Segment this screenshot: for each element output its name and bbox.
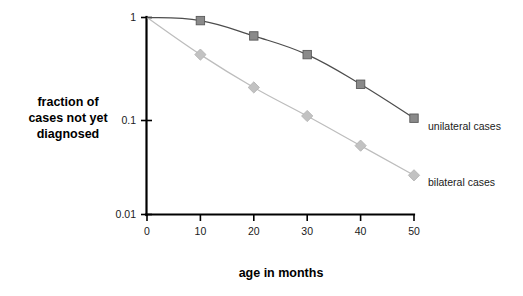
unilateral-marker	[356, 80, 364, 88]
unilateral-marker	[250, 32, 258, 40]
unilateral-marker	[196, 16, 204, 24]
y-axis-title-line-2: cases not yet	[28, 111, 108, 125]
bilateral-line	[147, 18, 414, 176]
bilateral-marker	[355, 140, 366, 151]
series-unilateral-cases	[147, 16, 418, 122]
x-tick-label-40: 40	[355, 225, 367, 237]
series-label-unilateral: unilateral cases	[428, 120, 501, 132]
x-tick-label-30: 30	[301, 225, 313, 237]
x-tick-label-20: 20	[248, 225, 260, 237]
y-tick-label-0.01: 0.01	[116, 208, 137, 220]
x-axis-ticks: 0 10 20 30 40 50	[144, 214, 420, 237]
chart-plot-area: fraction of cases not yet diagnosed 1 0.…	[0, 0, 523, 296]
y-tick-label-1: 1	[130, 11, 136, 23]
bilateral-marker	[302, 110, 313, 121]
unilateral-marker	[410, 114, 418, 122]
series-label-bilateral: bilateral cases	[428, 176, 495, 188]
x-tick-label-10: 10	[195, 225, 207, 237]
unilateral-marker	[303, 50, 311, 58]
y-axis-title-line-3: diagnosed	[37, 127, 100, 141]
x-tick-label-50: 50	[408, 225, 420, 237]
y-axis-title-line-1: fraction of	[37, 95, 99, 109]
series-bilateral-cases	[147, 18, 420, 181]
bilateral-marker	[408, 170, 419, 181]
x-axis-title: age in months	[239, 266, 324, 280]
x-tick-label-0: 0	[144, 225, 150, 237]
bilateral-marker	[248, 82, 259, 93]
bilateral-marker	[195, 49, 206, 60]
unilateral-line	[147, 18, 414, 119]
chart-figure: fraction of cases not yet diagnosed 1 0.…	[0, 0, 523, 296]
y-axis-title: fraction of cases not yet diagnosed	[28, 95, 108, 141]
y-tick-label-0.1: 0.1	[121, 114, 136, 126]
